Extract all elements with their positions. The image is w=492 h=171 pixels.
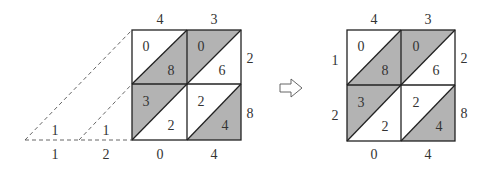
- left-c10-lower: 2: [168, 118, 175, 133]
- left-extra-bottom-2: 2: [103, 147, 110, 162]
- left-carry-1: 1: [52, 123, 59, 138]
- right-left-label-2: 2: [332, 108, 339, 123]
- right-c10-lower: 2: [382, 119, 389, 134]
- left-lattice: 4 3 2 8 0 4 1 2 1 1 0 8 0 6 3 2 2 4: [25, 12, 254, 162]
- left-c11-lower: 4: [222, 118, 229, 133]
- right-right-label-1: 2: [461, 51, 468, 66]
- left-c10-upper: 3: [143, 94, 150, 109]
- right-c10-upper: 3: [358, 95, 365, 110]
- left-top-label-2: 3: [211, 12, 218, 27]
- left-right-label-1: 2: [247, 51, 254, 66]
- lattice-multiplication-diagram: 4 3 2 8 0 4 1 2 1 1 0 8 0 6 3 2 2 4 4 3: [0, 0, 492, 171]
- right-lattice: 4 3 1 2 2 8 0 4 0 8 0 6 3 2 2 4: [332, 12, 468, 162]
- right-top-label-1: 4: [371, 12, 378, 27]
- right-c11-lower: 4: [436, 119, 443, 134]
- right-right-label-2: 8: [461, 106, 468, 121]
- left-bottom-label-2: 4: [211, 147, 218, 162]
- right-top-label-2: 3: [425, 12, 432, 27]
- left-c11-upper: 2: [198, 94, 205, 109]
- left-extra-bottom-1: 1: [52, 147, 59, 162]
- right-bottom-label-1: 0: [371, 147, 378, 162]
- right-c11-upper: 2: [413, 95, 420, 110]
- right-c00-lower: 8: [382, 63, 389, 78]
- right-left-label-1: 1: [332, 53, 339, 68]
- right-c01-upper: 0: [413, 39, 420, 54]
- right-arrow-icon: [280, 79, 302, 97]
- left-carry-2: 1: [103, 123, 110, 138]
- left-c00-lower: 8: [168, 63, 175, 78]
- left-top-label-1: 4: [157, 12, 164, 27]
- right-c01-lower: 6: [433, 63, 440, 78]
- right-c00-upper: 0: [358, 39, 365, 54]
- left-c01-lower: 6: [219, 63, 226, 78]
- left-c01-upper: 0: [198, 39, 205, 54]
- left-c00-upper: 0: [143, 39, 150, 54]
- left-bottom-label-1: 0: [157, 147, 164, 162]
- right-bottom-label-2: 4: [425, 147, 432, 162]
- left-right-label-2: 8: [247, 106, 254, 121]
